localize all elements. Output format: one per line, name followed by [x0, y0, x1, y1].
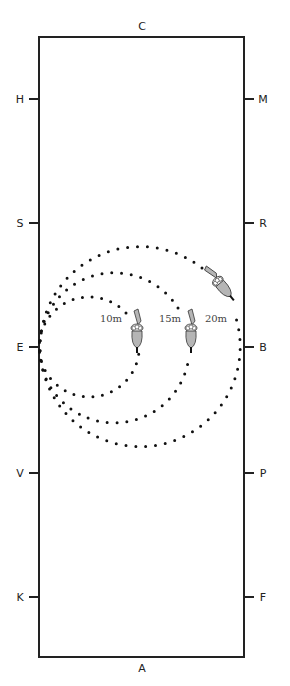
marker-B: B: [259, 341, 267, 354]
marker-P: P: [260, 467, 267, 480]
dressage-arena-diagram: C H M S R E B V P K F A 10m 15m 20m: [0, 0, 290, 686]
label-20m: 20m: [205, 313, 228, 324]
marker-ticks: [29, 99, 254, 597]
horse-rider-icon-20m: [201, 263, 238, 304]
marker-E: E: [17, 341, 24, 354]
marker-K: K: [16, 591, 24, 604]
dotted-circles: [39, 247, 240, 447]
marker-C: C: [138, 20, 146, 33]
horse-rider-icon-10m: [131, 309, 143, 353]
marker-S: S: [17, 217, 24, 230]
horse-rider-icon-15m: [185, 309, 197, 353]
marker-M: M: [258, 93, 268, 106]
marker-V: V: [16, 467, 24, 480]
marker-R: R: [259, 217, 267, 230]
marker-F: F: [260, 591, 266, 604]
circle-10m-path: [39, 297, 139, 397]
marker-H: H: [16, 93, 24, 106]
label-10m: 10m: [100, 313, 123, 324]
arena-boundary: [39, 37, 244, 657]
circle-labels: 10m 15m 20m: [100, 313, 228, 324]
circle-15m-path: [39, 273, 189, 423]
label-15m: 15m: [159, 313, 182, 324]
marker-letters: C H M S R E B V P K F A: [16, 20, 268, 675]
marker-A: A: [138, 662, 146, 675]
